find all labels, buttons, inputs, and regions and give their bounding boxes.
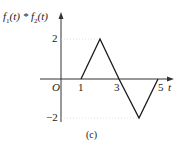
y-axis-arrow-icon (59, 12, 64, 19)
x-axis-label: t (168, 82, 171, 93)
y-axis-label: f1(t) * f2(t) (3, 11, 48, 25)
figure-caption: (c) (86, 130, 97, 140)
origin-label: O (52, 82, 60, 93)
x-tick-3: 3 (114, 82, 120, 93)
x-tick-1: 1 (78, 82, 84, 93)
y-tick-2: 2 (52, 33, 58, 44)
x-tick-5: 5 (158, 82, 164, 93)
y-tick-neg2: −2 (46, 112, 58, 123)
